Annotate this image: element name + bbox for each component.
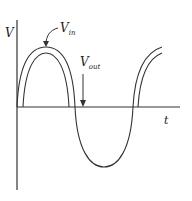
y-axis-label: V [5, 26, 15, 40]
vin-label: Vin [60, 21, 76, 37]
vin-inner-arc-2 [138, 53, 162, 107]
vin-positive-arc-2 [133, 47, 162, 107]
x-axis-label: t [164, 114, 169, 127]
vin-positive-arc [17, 47, 75, 107]
vin-arrowhead [43, 41, 49, 47]
vin-negative-lobe [75, 107, 133, 167]
waveform-diagram: V t Vin Vout [0, 0, 192, 201]
vout-arrowhead [80, 100, 86, 107]
vout-label: Vout [80, 55, 100, 71]
vin-inner-arc [23, 53, 69, 107]
